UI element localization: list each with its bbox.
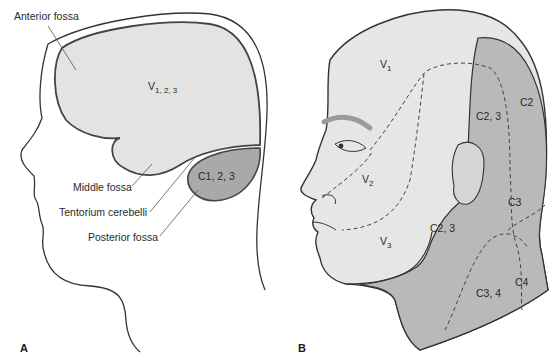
label-posterior-fossa: Posterior fossa bbox=[88, 231, 158, 243]
panel-a: Anterior fossa Middle fossa Tentorium ce… bbox=[14, 10, 267, 354]
label-c123: C1, 2, 3 bbox=[198, 170, 235, 182]
label-anterior-fossa: Anterior fossa bbox=[14, 10, 79, 22]
label-c34: C3, 4 bbox=[476, 287, 501, 299]
label-c2: C2 bbox=[520, 96, 534, 108]
label-middle-fossa: Middle fossa bbox=[73, 181, 132, 193]
panel-label-b: B bbox=[298, 342, 306, 354]
panel-b: V1 V2 V3 C2 C2, 3 C3 C2, 3 C3, 4 C4 B bbox=[298, 10, 548, 354]
label-c23-neck: C2, 3 bbox=[430, 222, 455, 234]
dermatome-figure: Anterior fossa Middle fossa Tentorium ce… bbox=[0, 0, 557, 361]
callout-line-posterior bbox=[160, 190, 198, 236]
label-c4: C4 bbox=[515, 276, 529, 288]
label-c23-top: C2, 3 bbox=[476, 110, 501, 122]
pupil bbox=[339, 144, 344, 149]
label-tentorium-cerebelli: Tentorium cerebelli bbox=[59, 206, 147, 218]
panel-label-a: A bbox=[20, 342, 28, 354]
label-c3: C3 bbox=[508, 196, 522, 208]
